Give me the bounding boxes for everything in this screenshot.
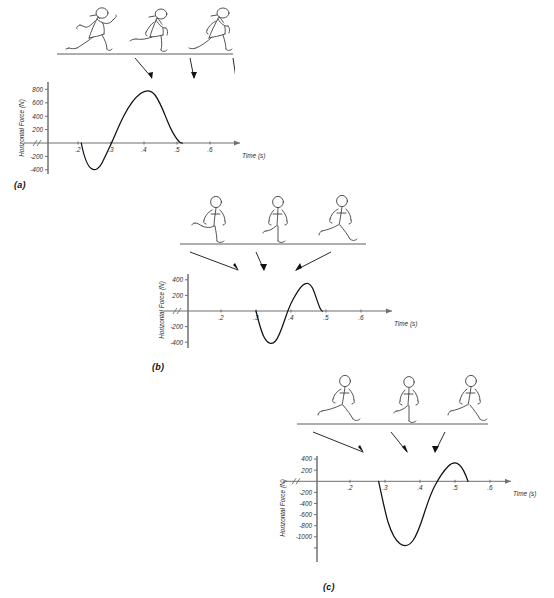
svg-text:400: 400 [172, 276, 183, 283]
runner-figure-a1 [66, 8, 116, 51]
runner-figure-c3 [448, 375, 487, 420]
svg-text:400: 400 [301, 455, 312, 462]
runner-sequence-b [178, 192, 368, 252]
svg-text:.6: .6 [358, 314, 364, 321]
runner-sequence-c [295, 372, 490, 430]
svg-text:-1000: -1000 [296, 533, 313, 540]
panel-b-chart: 400 200 -200 -400 .2.3 .4.5 .6 Time (s) … [154, 270, 414, 352]
svg-text:.4: .4 [141, 146, 147, 153]
runner-figure-c2 [394, 377, 418, 423]
svg-text:.5: .5 [174, 146, 180, 153]
svg-text:-400: -400 [299, 500, 312, 507]
svg-text:.2: .2 [347, 484, 353, 491]
runner-figure-c1 [318, 375, 360, 420]
x-axis-label-c: Time (s) [513, 490, 536, 498]
svg-text:.2: .2 [75, 146, 81, 153]
svg-text:-200: -200 [30, 153, 43, 160]
svg-text:-600: -600 [299, 511, 312, 518]
panel-c-runner-strip [295, 372, 490, 430]
runner-figure-b3 [319, 195, 357, 240]
svg-text:.4: .4 [417, 484, 423, 491]
panel-a-runner-strip [55, 4, 235, 62]
panel-a: 800 600 400 200 -200 -400 .2.3 .4.5 .6 T… [0, 0, 280, 195]
panel-a-label: (a) [14, 180, 26, 190]
svg-text:.4: .4 [288, 314, 294, 321]
chart-a-svg: 800 600 400 200 -200 -400 .2.3 .4.5 .6 T… [14, 78, 264, 178]
runner-figure-a2 [130, 9, 168, 52]
svg-text:.5: .5 [323, 314, 329, 321]
runner-figure-b2 [263, 196, 287, 242]
panel-b-runner-strip [178, 192, 368, 252]
svg-text:800: 800 [32, 86, 43, 93]
y-axis-label-c: Horizontal Force (N) [279, 479, 287, 537]
panel-c: 400 200 -200 -400 -600 -800 -1000 .2.3 .… [255, 370, 554, 598]
y-axis-label-a: Horizontal Force (N) [18, 99, 26, 157]
svg-text:-200: -200 [299, 489, 312, 496]
force-curve-a [81, 91, 182, 170]
x-axis-label-a: Time (s) [242, 152, 265, 160]
force-curve-c [379, 463, 468, 546]
svg-text:-800: -800 [299, 522, 312, 529]
panel-c-chart: 400 200 -200 -400 -600 -800 -1000 .2.3 .… [273, 452, 553, 568]
svg-text:-400: -400 [30, 166, 43, 173]
svg-text:-200: -200 [170, 323, 183, 330]
svg-text:-400: -400 [170, 339, 183, 346]
panel-b: 400 200 -200 -400 .2.3 .4.5 .6 Time (s) … [140, 190, 440, 380]
svg-text:.3: .3 [382, 484, 388, 491]
panel-b-label: (b) [152, 362, 164, 372]
panel-a-chart: 800 600 400 200 -200 -400 .2.3 .4.5 .6 T… [14, 78, 264, 178]
svg-text:.2: .2 [218, 314, 224, 321]
x-axis-label-b: Time (s) [394, 320, 417, 328]
svg-text:600: 600 [32, 99, 43, 106]
svg-text:200: 200 [300, 467, 312, 474]
svg-text:.6: .6 [487, 484, 493, 491]
runner-figure-a3 [189, 8, 232, 51]
panel-c-label: (c) [323, 582, 335, 592]
svg-text:200: 200 [171, 292, 183, 299]
svg-text:.6: .6 [207, 146, 213, 153]
svg-text:400: 400 [32, 113, 43, 120]
runner-sequence-a [55, 4, 235, 62]
chart-b-svg: 400 200 -200 -400 .2.3 .4.5 .6 Time (s) … [154, 270, 414, 352]
svg-text:200: 200 [31, 126, 43, 133]
chart-c-svg: 400 200 -200 -400 -600 -800 -1000 .2.3 .… [273, 452, 553, 568]
runner-figure-b1 [192, 196, 225, 242]
y-axis-label-b: Horizontal Force (N) [158, 281, 166, 339]
svg-text:.5: .5 [452, 484, 458, 491]
